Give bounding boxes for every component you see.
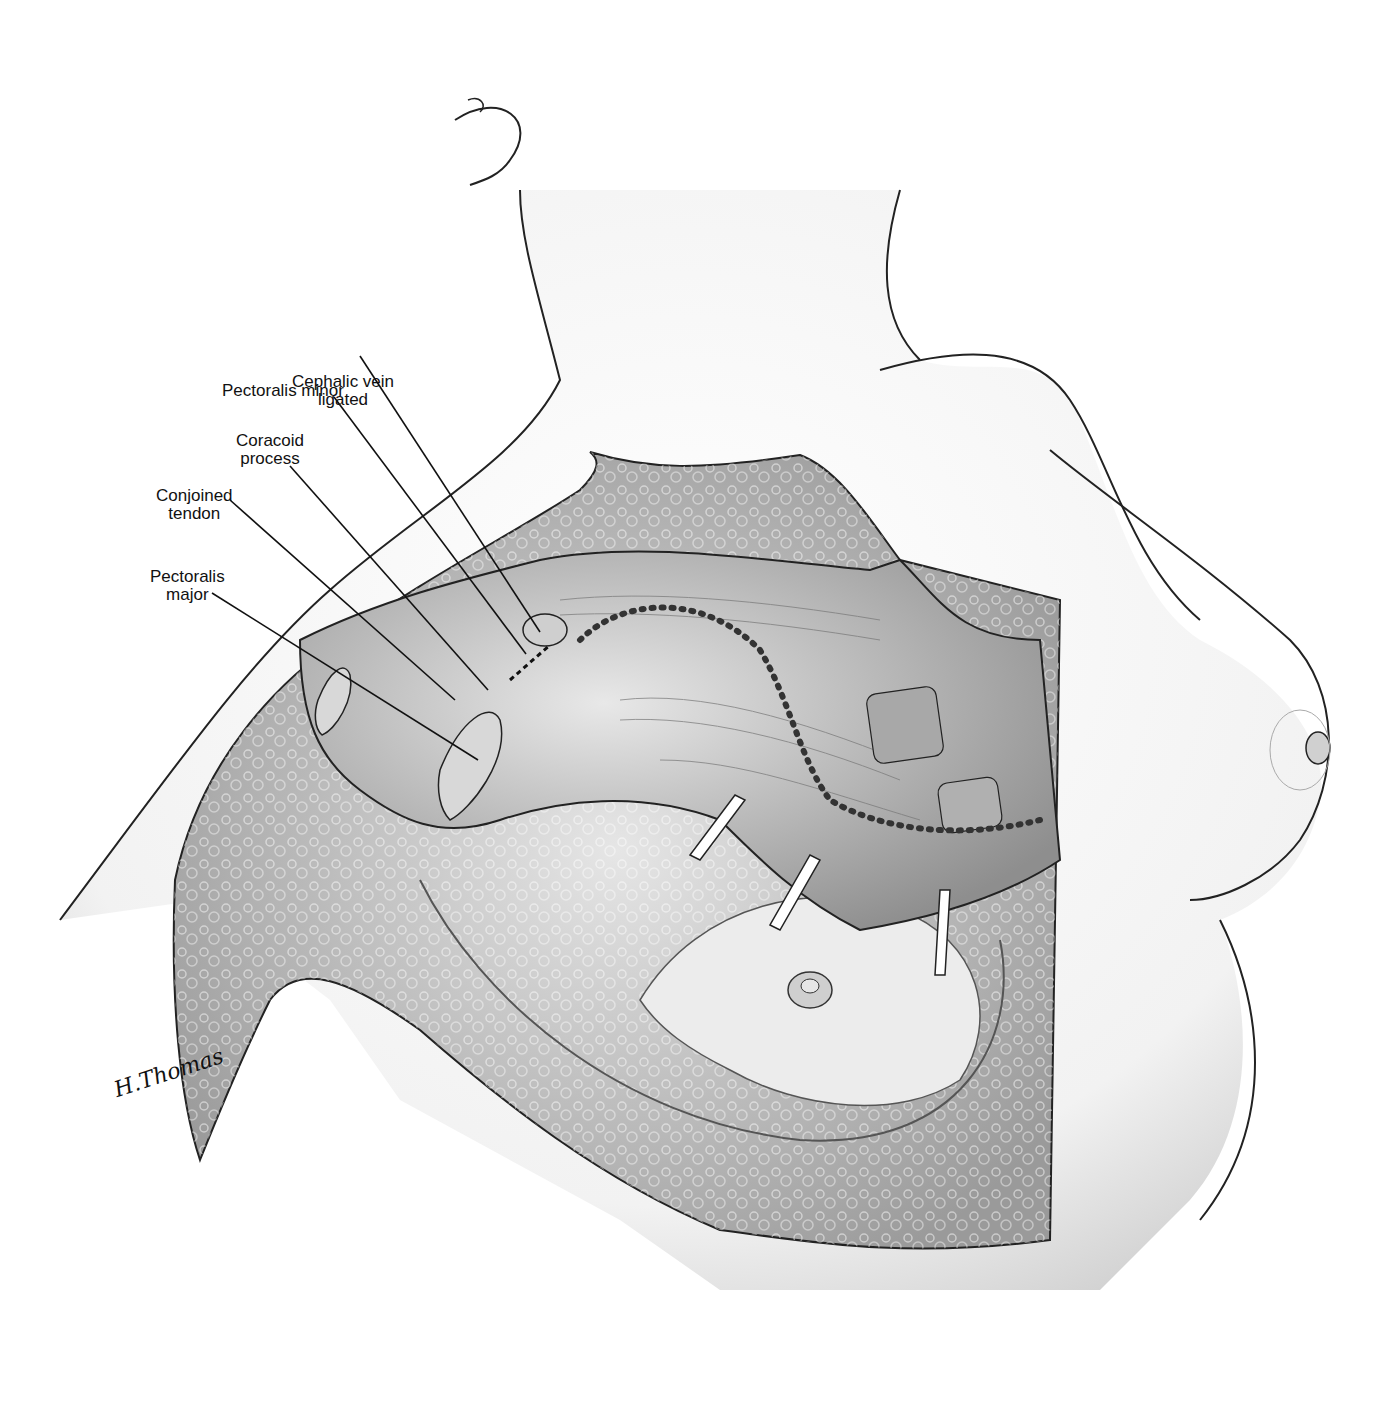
label-conjoined-tendon: Conjoined tendon (156, 487, 233, 523)
chin-outline (455, 99, 520, 185)
label-pectoralis-major: Pectoralis major (150, 568, 225, 604)
label-coracoid-process: Coracoid process (236, 432, 304, 468)
label-pectoralis-minor: Pectoralis minor (222, 382, 344, 400)
anatomical-illustration (0, 0, 1398, 1415)
